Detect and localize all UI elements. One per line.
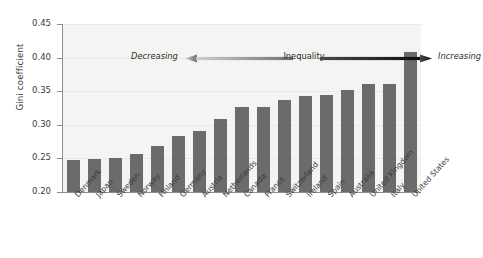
y-axis-title: Gini coefficient — [15, 22, 25, 132]
bar[interactable] — [404, 52, 417, 192]
arrow-right-icon — [320, 54, 432, 63]
y-axis-tick-mark — [57, 158, 62, 159]
plot-area: Decreasing Inequality — [62, 24, 421, 193]
annotation-decreasing-label: Decreasing — [131, 51, 178, 61]
y-axis-tick-mark — [57, 91, 62, 92]
inequality-annotation: Decreasing Inequality — [125, 50, 483, 66]
annotation-increasing-label: Increasing — [438, 51, 481, 61]
y-axis-tick-mark — [57, 125, 62, 126]
arrow-left-icon — [185, 54, 293, 63]
x-axis-labels: DenmarkJapanSwedenNorwayFinlandGermanyAu… — [62, 193, 420, 258]
y-axis-tick-label: 0.20 — [32, 186, 51, 196]
y-axis-tick-label: 0.25 — [32, 152, 51, 162]
y-axis-tick-mark — [57, 24, 62, 25]
y-axis-tick-label: 0.35 — [32, 85, 51, 95]
y-axis-tick-label: 0.40 — [32, 52, 51, 62]
y-axis-tick-mark — [57, 58, 62, 59]
bar[interactable] — [341, 90, 354, 192]
annotation-inequality-label: Inequality — [283, 51, 324, 61]
y-axis-tick-label: 0.45 — [32, 18, 51, 28]
y-axis-tick-label: 0.30 — [32, 119, 51, 129]
